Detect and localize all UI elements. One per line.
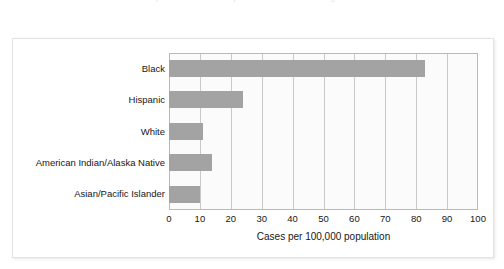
x-tick-label: 100 (470, 213, 486, 225)
x-tick-label: 80 (411, 213, 422, 225)
bar-row[interactable] (169, 53, 478, 84)
x-axis-title: Cases per 100,000 population (169, 230, 478, 243)
bar-row[interactable] (169, 147, 478, 178)
x-tick-label: 30 (256, 213, 267, 225)
x-tick-label: 50 (318, 213, 329, 225)
x-tick-label: 40 (287, 213, 298, 225)
bar-row[interactable] (169, 84, 478, 115)
category-label: Hispanic (13, 94, 165, 105)
category-label: Black (13, 63, 165, 74)
bars-layer (169, 53, 478, 210)
bar-chart: BlackHispanicWhiteAmerican Indian/Alaska… (13, 39, 495, 259)
bar[interactable] (169, 123, 203, 140)
category-labels: BlackHispanicWhiteAmerican Indian/Alaska… (13, 53, 165, 210)
category-label: American Indian/Alaska Native (13, 157, 165, 168)
x-tick-label: 10 (195, 213, 206, 225)
x-tick-label: 20 (226, 213, 237, 225)
x-tick-label: 60 (349, 213, 360, 225)
clipped-text-content: part of a line of body text cut off abov… (0, 0, 504, 2)
x-axis-ticks: 0102030405060708090100 (169, 213, 478, 227)
category-label: Asian/Pacific Islander (13, 188, 165, 199)
bar-row[interactable] (169, 179, 478, 210)
x-tick-label: 90 (442, 213, 453, 225)
x-tick-label: 70 (380, 213, 391, 225)
bar[interactable] (169, 60, 425, 77)
bar[interactable] (169, 154, 212, 171)
x-tick-label: 0 (166, 213, 171, 225)
bar[interactable] (169, 91, 243, 108)
category-label: White (13, 126, 165, 137)
bar[interactable] (169, 186, 200, 203)
clipped-text-line: part of a line of body text cut off abov… (0, 0, 504, 9)
figure-card: BlackHispanicWhiteAmerican Indian/Alaska… (12, 38, 494, 258)
bar-row[interactable] (169, 116, 478, 147)
